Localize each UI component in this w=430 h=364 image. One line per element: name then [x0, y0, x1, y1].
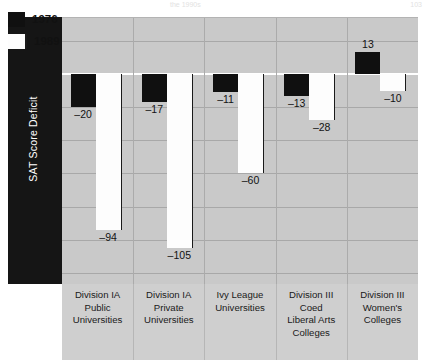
x-category-line: Division III	[347, 289, 418, 302]
bar-1976	[355, 52, 380, 74]
x-category-line: Universities	[133, 314, 204, 327]
bar-1976	[71, 74, 96, 107]
x-category-label: Ivy LeagueUniversities	[204, 284, 275, 360]
x-category-separator	[276, 284, 277, 360]
legend-swatch-1989-icon	[8, 34, 27, 49]
bar-1989	[96, 74, 122, 230]
category-separator	[276, 18, 277, 284]
bar-1989	[238, 74, 264, 173]
chart-figure: the 1990s 103 SAT Score Deficit 200–20–4…	[0, 0, 430, 364]
y-tick-label: –20	[0, 100, 4, 112]
category-separator	[133, 18, 134, 284]
bar-1976	[213, 74, 238, 92]
x-category-line: Universities	[62, 314, 133, 327]
x-category-line: Universities	[204, 302, 275, 315]
x-category-separator	[347, 284, 348, 360]
x-category-label: Division IIIWomen'sColleges	[347, 284, 418, 360]
y-tick-label: 20	[0, 34, 4, 46]
page-number: 103	[410, 1, 422, 8]
x-category-line: Public	[62, 302, 133, 315]
x-category-line: Division III	[276, 289, 347, 302]
legend-item-1976: 1976	[8, 9, 60, 29]
x-category-separator	[204, 284, 205, 360]
legend-swatch-1976-icon	[8, 12, 25, 27]
x-category-line: Colleges	[276, 327, 347, 340]
legend: 1976 1989	[8, 9, 60, 53]
bar-value-label-1976: –20	[63, 108, 104, 120]
category-separator	[347, 18, 348, 284]
x-category-line: Ivy League	[204, 289, 275, 302]
bar-value-label-1989: –10	[370, 92, 415, 104]
x-category-label: Division IAPrivateUniversities	[133, 284, 204, 360]
bar-value-label-1989: –28	[299, 121, 344, 133]
x-category-label: Division IAPublicUniversities	[62, 284, 133, 360]
bar-value-label-1989: –94	[86, 231, 131, 243]
y-tick-label: –80	[0, 200, 4, 212]
legend-item-1989: 1989	[8, 31, 60, 51]
y-tick-label: –120	[0, 266, 4, 278]
page-header-crop: the 1990s 103	[0, 0, 430, 15]
bar-value-label-1989: –105	[157, 249, 202, 261]
x-category-line: Private	[133, 302, 204, 315]
x-category-line: Division IA	[62, 289, 133, 302]
bar-value-label-1976: –17	[134, 103, 175, 115]
bar-value-label-1976: 13	[347, 38, 388, 50]
y-tick-label: –60	[0, 166, 4, 178]
x-category-line: Colleges	[347, 314, 418, 327]
gridline	[62, 273, 418, 274]
bar-1976	[142, 74, 167, 102]
y-axis-strip: SAT Score Deficit 200–20–40–60–80–100–12…	[8, 17, 62, 284]
header-faint-text: the 1990s	[170, 1, 201, 8]
y-tick-label: –40	[0, 133, 4, 145]
x-category-line: Coed	[276, 302, 347, 315]
bar-value-label-1989: –60	[228, 174, 273, 186]
x-axis-category-labels: Division IAPublicUniversitiesDivision IA…	[62, 284, 418, 360]
y-axis-title: SAT Score Deficit	[27, 54, 39, 224]
x-category-line: Liberal Arts	[276, 314, 347, 327]
plot-area: –20–94–17–105–11–60–13–2813–10	[62, 17, 418, 284]
category-separator	[204, 18, 205, 284]
bar-1989	[167, 74, 193, 248]
x-category-label: Division IIICoedLiberal ArtsColleges	[276, 284, 347, 360]
bar-1989	[380, 74, 406, 91]
x-category-line: Division IA	[133, 289, 204, 302]
x-category-separator	[133, 284, 134, 360]
legend-label-1989: 1989	[34, 35, 60, 47]
y-tick-label: –100	[0, 233, 4, 245]
bar-1976	[284, 74, 309, 96]
bar-value-label-1976: –11	[205, 93, 246, 105]
bar-value-label-1976: –13	[276, 97, 317, 109]
x-category-line: Women's	[347, 302, 418, 315]
y-tick-label: 0	[0, 67, 4, 79]
legend-label-1976: 1976	[32, 13, 58, 25]
